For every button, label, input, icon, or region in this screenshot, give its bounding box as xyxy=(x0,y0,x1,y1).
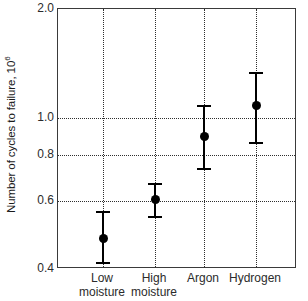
y-tick-label-0-8: 0.8 xyxy=(14,148,54,160)
datapoint-argon xyxy=(200,132,209,141)
gridline-vertical-high-moisture xyxy=(155,9,156,267)
gridline-horizontal-1-0 xyxy=(58,118,295,119)
errorbar-cap-lower-low-moisture xyxy=(96,262,110,264)
datapoint-hydrogen xyxy=(252,101,261,110)
y-tick-label-1-0: 1.0 xyxy=(14,111,54,123)
y-axis-title-text: Number of cycles to failure, 10 xyxy=(4,61,16,213)
x-tick-label-hydrogen: Hydrogen xyxy=(209,272,301,286)
errorbar-chart-figure: Number of cycles to failure, 106 2.0 1.0… xyxy=(0,0,308,301)
errorbar-cap-upper-low-moisture xyxy=(96,211,110,213)
errorbar-cap-upper-argon xyxy=(197,105,211,107)
datapoint-high-moisture xyxy=(151,195,160,204)
plot-area xyxy=(57,8,296,268)
y-axis-title-exponent: 6 xyxy=(2,57,11,61)
x-tick-label-high-moisture-line2: moisture xyxy=(108,286,200,300)
errorbar-cap-lower-high-moisture xyxy=(148,216,162,218)
errorbar-cap-lower-argon xyxy=(197,168,211,170)
errorbar-cap-lower-hydrogen xyxy=(249,142,263,144)
y-tick-label-0-6: 0.6 xyxy=(14,194,54,206)
y-axis-title: Number of cycles to failure, 106 xyxy=(0,0,22,270)
y-tick-label-0-4: 0.4 xyxy=(14,262,54,274)
errorbar-cap-upper-hydrogen xyxy=(249,72,263,74)
datapoint-low-moisture xyxy=(99,234,108,243)
gridline-horizontal-0-8 xyxy=(58,155,295,156)
gridline-horizontal-0-6 xyxy=(58,201,295,202)
y-tick-label-2-0: 2.0 xyxy=(14,2,54,14)
x-tick-label-hydrogen-line1: Hydrogen xyxy=(229,271,281,285)
errorbar-cap-upper-high-moisture xyxy=(148,183,162,185)
